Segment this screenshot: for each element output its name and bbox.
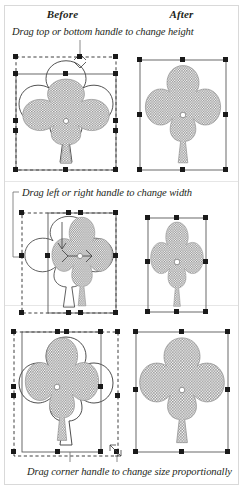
handle-bottom-center-2[interactable] xyxy=(66,310,71,315)
handle-middle-right-3[interactable] xyxy=(98,384,103,389)
handle-middle-left-2[interactable] xyxy=(19,253,24,258)
handle-middle-left-alt-3[interactable] xyxy=(11,393,16,398)
before-center-point-2 xyxy=(77,253,82,258)
handle-middle-right-alt-1[interactable] xyxy=(113,128,118,133)
handle-new-top-left-1[interactable] xyxy=(13,71,18,76)
handle-bottom-left-1[interactable] xyxy=(13,167,18,172)
handle-new-top-center-1[interactable] xyxy=(63,71,68,76)
handle-middle-left-new-2[interactable] xyxy=(45,253,50,258)
handle-top-center-2[interactable] xyxy=(66,210,71,215)
after-handle-bottom-left-3[interactable] xyxy=(133,449,138,454)
after-handle-bottom-center-2[interactable] xyxy=(174,309,179,314)
after-handle-top-left-2[interactable] xyxy=(145,215,150,220)
after-handle-middle-right-3[interactable] xyxy=(225,387,230,392)
after-handle-top-right-2[interactable] xyxy=(203,215,208,220)
after-center-point-2 xyxy=(174,259,180,265)
after-handle-top-center-1[interactable] xyxy=(180,57,185,62)
after-handle-middle-left-1[interactable] xyxy=(137,112,142,117)
after-handle-top-left-1[interactable] xyxy=(137,57,142,62)
handle-middle-right-1[interactable] xyxy=(113,118,118,123)
after-handle-bottom-right-2[interactable] xyxy=(203,309,208,314)
after-handle-middle-left-3[interactable] xyxy=(133,387,138,392)
handle-middle-left-alt-1[interactable] xyxy=(13,128,18,133)
before-center-point-1 xyxy=(63,118,68,123)
resize-illustration-figure: Before After Drag top or bottom handle t… xyxy=(0,0,243,490)
handle-bottom-center-alt-2[interactable] xyxy=(78,310,83,315)
handle-top-right-new-3[interactable] xyxy=(115,329,120,334)
before-clover-3 xyxy=(25,338,98,441)
before-clover-2 xyxy=(52,217,112,306)
handle-top-center-alt-3[interactable] xyxy=(64,329,69,334)
after-handle-middle-right-1[interactable] xyxy=(223,112,228,117)
after-center-point-1 xyxy=(180,112,186,118)
handle-top-left-2[interactable] xyxy=(19,210,24,215)
handle-new-top-right-1[interactable] xyxy=(113,71,118,76)
after-center-point-3 xyxy=(179,387,185,393)
handle-top-right-3[interactable] xyxy=(98,329,103,334)
handle-top-center-1[interactable] xyxy=(77,54,82,59)
handle-bottom-center-1[interactable] xyxy=(63,167,68,172)
handle-bottom-left-2[interactable] xyxy=(19,310,24,315)
after-handle-top-center-3[interactable] xyxy=(179,329,184,334)
handle-top-left-1[interactable] xyxy=(13,54,18,59)
after-handle-bottom-left-1[interactable] xyxy=(137,167,142,172)
handle-bottom-left-3[interactable] xyxy=(11,449,16,454)
illustration-artwork xyxy=(0,0,243,490)
leader-line-width xyxy=(13,192,22,257)
after-handle-middle-left-2[interactable] xyxy=(145,259,150,264)
handle-middle-right-new-3[interactable] xyxy=(115,393,120,398)
handle-top-center-3[interactable] xyxy=(55,329,60,334)
handle-top-right-2[interactable] xyxy=(113,210,118,215)
after-handle-top-center-2[interactable] xyxy=(174,215,179,220)
drag-arrow-diagonal-icon xyxy=(110,445,121,456)
after-handle-bottom-left-2[interactable] xyxy=(145,309,150,314)
after-handle-bottom-right-1[interactable] xyxy=(223,167,228,172)
handle-top-center-alt-2[interactable] xyxy=(78,210,83,215)
after-handle-middle-right-2[interactable] xyxy=(203,259,208,264)
handle-top-left-3[interactable] xyxy=(11,329,16,334)
after-handle-bottom-center-1[interactable] xyxy=(180,167,185,172)
handle-bottom-center-3[interactable] xyxy=(55,449,60,454)
handle-bottom-right-3[interactable] xyxy=(98,449,103,454)
after-handle-bottom-center-3[interactable] xyxy=(179,449,184,454)
handle-middle-right-2[interactable] xyxy=(113,253,118,258)
handle-bottom-right-2[interactable] xyxy=(113,310,118,315)
handle-middle-left-3[interactable] xyxy=(11,384,16,389)
after-handle-bottom-right-3[interactable] xyxy=(225,449,230,454)
handle-bottom-right-1[interactable] xyxy=(113,167,118,172)
handle-top-right-1[interactable] xyxy=(113,54,118,59)
handle-middle-left-1[interactable] xyxy=(13,118,18,123)
after-handle-top-left-3[interactable] xyxy=(133,329,138,334)
after-handle-top-right-3[interactable] xyxy=(225,329,230,334)
before-center-point-3 xyxy=(54,384,60,390)
before-motion-arrow-2 xyxy=(58,222,66,249)
after-handle-top-right-1[interactable] xyxy=(223,57,228,62)
